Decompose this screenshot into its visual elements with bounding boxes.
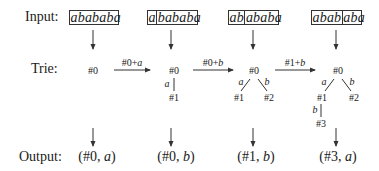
input-box-4: abab aba	[311, 10, 362, 25]
output-pair-2: (#0, b)	[157, 149, 194, 165]
trie4-node-3: #3	[316, 118, 326, 129]
trie3-node-1: #1	[234, 92, 244, 103]
input-segment: abababa	[70, 11, 121, 24]
input-segment-remaining: aba	[342, 11, 366, 24]
input-segment-remaining: ababa	[244, 11, 282, 24]
input-segment-consumed: a	[148, 11, 156, 24]
trie4-edge-label-a: a	[322, 76, 327, 87]
trie3-node-2: #2	[264, 92, 274, 103]
trie4-edge-label-b: b	[350, 76, 355, 87]
trie4-edge-label-b2: b	[313, 104, 318, 115]
trie1-node-0: #0	[88, 65, 98, 76]
input-segment-consumed: abab	[312, 11, 342, 24]
output-pair-4: (#3, a)	[319, 149, 356, 165]
transition-label-1: #0+a	[122, 57, 143, 68]
trie4-node-1: #1	[317, 92, 327, 103]
trie3-node-0: #0	[249, 65, 259, 76]
trie3-edge-label-a: a	[239, 76, 244, 87]
trie4-node-2: #2	[349, 92, 359, 103]
trie2-node-0: #0	[169, 65, 179, 76]
transition-label-3: #1+b	[285, 57, 306, 68]
input-box-2: a bababa	[147, 10, 198, 25]
output-pair-1: (#0, a)	[78, 149, 115, 165]
trie2-node-1: #1	[169, 92, 179, 103]
transition-label-2: #0+b	[203, 57, 224, 68]
output-row-label: Output:	[19, 149, 62, 165]
input-segment-remaining: bababa	[156, 11, 201, 24]
trie3-edge-label-b: b	[265, 76, 270, 87]
input-box-3: ab ababa	[228, 10, 279, 25]
output-pair-3: (#1, b)	[237, 149, 274, 165]
trie-row-label: Trie:	[31, 61, 58, 77]
trie2-edge-label-a: a	[165, 78, 170, 89]
trie4-node-0: #0	[333, 65, 343, 76]
input-segment-consumed: ab	[229, 11, 244, 24]
input-box-1: abababa	[69, 10, 119, 25]
input-row-label: Input:	[25, 9, 58, 25]
